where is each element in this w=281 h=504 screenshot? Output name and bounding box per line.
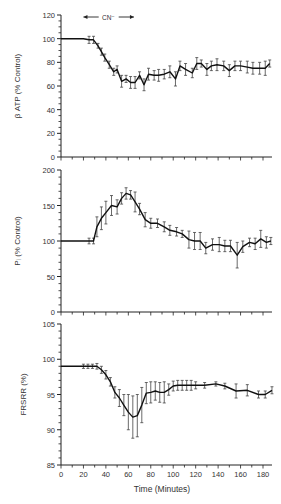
y-tick-label: 80 — [47, 58, 55, 67]
y-tick-label: 40 — [47, 106, 55, 115]
cn-annotation: CN⁻ — [83, 14, 134, 21]
y-tick-label: 95 — [47, 391, 55, 400]
data-series-line — [61, 193, 271, 255]
y-axis-label: FRSRR (%) — [19, 373, 28, 416]
x-tick-label: 0 — [59, 470, 63, 479]
cn-label: CN⁻ — [102, 14, 115, 21]
figure: 020406080100120β ATP (% Control) 0501001… — [0, 0, 281, 504]
y-tick-label: 100 — [42, 237, 55, 246]
y-tick-label: 100 — [42, 355, 55, 364]
y-tick-label: 85 — [47, 461, 55, 470]
x-tick-label: 140 — [212, 470, 225, 479]
y-tick-label: 50 — [47, 273, 55, 282]
y-tick-label: 60 — [47, 82, 55, 91]
x-tick-label: 20 — [79, 470, 87, 479]
panel-frsrr: 859095100105020406080100120140160180FRSR… — [19, 320, 273, 479]
panel-pi: 050100150200Pᵢ (% Control) — [13, 166, 272, 317]
x-tick-label: 180 — [257, 470, 270, 479]
y-tick-label: 90 — [47, 426, 55, 435]
y-tick-label: 120 — [42, 11, 55, 20]
y-tick-label: 100 — [42, 35, 55, 44]
figure-svg: 020406080100120β ATP (% Control) 0501001… — [0, 0, 281, 504]
x-axis-label: Time (Minutes) — [134, 484, 191, 494]
y-axis-label: Pᵢ (% Control) — [13, 216, 22, 266]
y-tick-label: 0 — [51, 153, 55, 162]
x-tick-label: 80 — [147, 470, 155, 479]
x-tick-label: 100 — [167, 470, 180, 479]
y-tick-label: 150 — [42, 202, 55, 211]
data-series-line — [61, 366, 272, 417]
y-axis-label: β ATP (% Control) — [13, 54, 22, 119]
arrow-right-icon — [130, 15, 134, 19]
x-tick-label: 120 — [189, 470, 202, 479]
y-tick-label: 20 — [47, 129, 55, 138]
panel-beta-atp: 020406080100120β ATP (% Control) — [13, 11, 272, 162]
y-tick-label: 0 — [51, 308, 55, 317]
data-series-line — [61, 39, 270, 85]
y-tick-label: 105 — [42, 320, 55, 329]
x-tick-label: 40 — [102, 470, 110, 479]
x-tick-label: 60 — [124, 470, 132, 479]
arrow-left-icon — [83, 15, 87, 19]
y-tick-label: 200 — [42, 166, 55, 175]
x-tick-label: 160 — [234, 470, 247, 479]
